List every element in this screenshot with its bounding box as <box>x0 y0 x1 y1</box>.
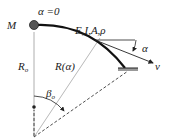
moment-label: M <box>6 19 17 31</box>
radius-alpha-label: R(α) <box>54 60 75 73</box>
center-point <box>32 105 36 109</box>
properties-label: E,I,A,ρ <box>74 24 106 36</box>
alpha-arc <box>133 40 136 51</box>
velocity-label: v <box>155 60 160 72</box>
support-dashed-line <box>34 71 128 137</box>
alpha-zero-label: α =0 <box>38 5 60 17</box>
radius-alpha-line <box>34 38 100 137</box>
beta0-label: βo <box>45 87 55 101</box>
radius0-label: Ro <box>17 60 29 74</box>
mass-icon <box>30 21 39 30</box>
alpha-label: α <box>142 42 148 54</box>
beam-diagram: M α =0 E,I,A,ρ α v Ro R(α) βo <box>0 0 169 139</box>
